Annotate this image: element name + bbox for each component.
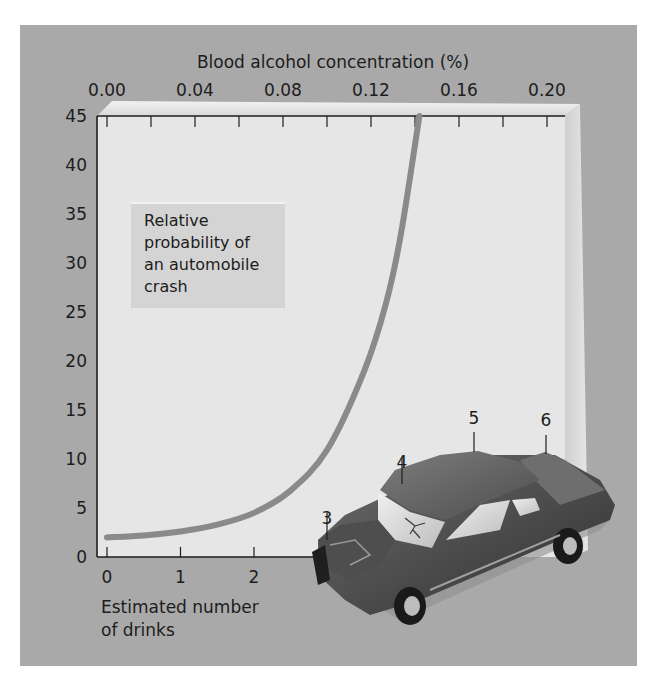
y-tick-label: 45 (65, 106, 87, 126)
y-tick-label: 20 (65, 351, 87, 371)
y-tick-label: 5 (76, 498, 87, 518)
x-tick-label: 2 (249, 567, 260, 587)
annotation-box: Relative probability of an automobile cr… (131, 202, 285, 308)
top-tick-label: 0.20 (528, 80, 566, 100)
x-tick-label: 1 (175, 567, 186, 587)
y-tick-label: 15 (65, 400, 87, 420)
y-tick-label: 30 (65, 253, 87, 273)
x-axis-title-line1: Estimated number (101, 597, 259, 617)
svg-text:Relative: Relative (144, 211, 209, 230)
x-tick-label: 0 (102, 567, 113, 587)
svg-text:crash: crash (144, 277, 188, 296)
y-tick-label: 25 (65, 302, 87, 322)
x-axis-title-line2: of drinks (101, 620, 175, 640)
y-tick-label: 35 (65, 204, 87, 224)
car-drink-label: 4 (397, 452, 408, 472)
top-tick-label: 0.12 (352, 80, 390, 100)
y-tick-label: 40 (65, 155, 87, 175)
svg-text:an automobile: an automobile (144, 255, 259, 274)
top-tick-label: 0.16 (440, 80, 478, 100)
top-axis-title: Blood alcohol concentration (%) (197, 52, 469, 72)
y-tick-label: 0 (76, 547, 87, 567)
car-drink-label: 3 (322, 508, 333, 528)
car-drink-label: 6 (541, 410, 552, 430)
top-tick-label: 0.08 (264, 80, 302, 100)
top-tick-label: 0.04 (176, 80, 214, 100)
y-tick-label: 10 (65, 449, 87, 469)
svg-text:probability of: probability of (144, 233, 250, 252)
car-drink-label: 5 (469, 408, 480, 428)
chart-figure: Blood alcohol concentration (%) 0.000.04… (0, 0, 654, 687)
top-tick-label: 0.00 (88, 80, 126, 100)
